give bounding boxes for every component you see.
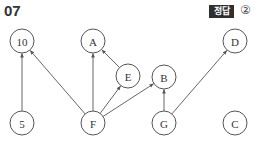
node-10: 10 bbox=[10, 29, 34, 53]
edge-F-to-10 bbox=[30, 50, 85, 113]
node-label: C bbox=[231, 118, 238, 130]
node-B: B bbox=[152, 65, 176, 89]
node-label: A bbox=[89, 36, 97, 48]
edge-F-to-E bbox=[100, 86, 120, 113]
edge-E-to-A bbox=[102, 50, 120, 68]
node-D: D bbox=[223, 29, 247, 53]
node-label: D bbox=[231, 36, 239, 48]
edge-F-to-B bbox=[103, 84, 153, 117]
node-A: A bbox=[81, 29, 105, 53]
node-label: G bbox=[160, 118, 168, 130]
node-label: 10 bbox=[17, 36, 29, 48]
nodes-group: 10AEBD5FGC bbox=[10, 29, 247, 135]
edge-G-to-D bbox=[172, 50, 227, 113]
directed-graph: 10AEBD5FGC bbox=[0, 0, 261, 141]
node-label: E bbox=[125, 71, 132, 83]
node-label: F bbox=[90, 118, 96, 130]
node-G: G bbox=[152, 111, 176, 135]
node-5: 5 bbox=[10, 111, 34, 135]
node-F: F bbox=[81, 111, 105, 135]
node-label: B bbox=[160, 72, 167, 84]
node-C: C bbox=[223, 111, 247, 135]
node-E: E bbox=[116, 64, 140, 88]
node-label: 5 bbox=[19, 118, 25, 130]
